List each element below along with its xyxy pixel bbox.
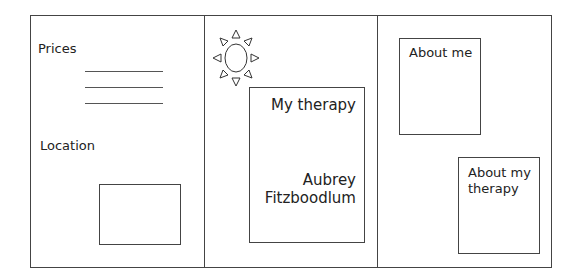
price-line-2	[85, 87, 163, 88]
sun-icon	[212, 28, 262, 88]
cover-title: My therapy	[271, 95, 356, 115]
about-me-box: About me	[399, 38, 481, 135]
about-therapy-box: About my therapy	[458, 157, 540, 254]
prices-heading: Prices	[38, 41, 77, 57]
map-placeholder	[99, 184, 181, 245]
location-heading: Location	[40, 138, 95, 154]
panel-divider-right	[377, 15, 378, 268]
cover-panel: My therapy Aubrey Fitzboodlum	[249, 87, 365, 243]
price-line-1	[85, 71, 163, 72]
about-me-heading: About me	[409, 45, 472, 61]
panel-divider-left	[204, 15, 205, 268]
about-therapy-heading-line2: therapy	[468, 181, 519, 197]
therapist-last-name: Fitzboodlum	[265, 188, 356, 208]
price-line-3	[85, 103, 163, 104]
about-therapy-heading-line1: About my	[468, 165, 531, 181]
therapist-first-name: Aubrey	[303, 170, 356, 190]
